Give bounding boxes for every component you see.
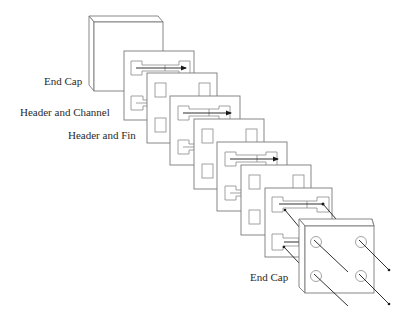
label-header-and-fin: Header and Fin	[68, 129, 136, 141]
exploded-stack-diagram	[0, 0, 405, 321]
label-end-cap-top: End Cap	[44, 75, 82, 87]
label-end-cap-bottom: End Cap	[250, 271, 288, 283]
label-header-and-channel: Header and Channel	[20, 106, 110, 118]
end-cap-bottom	[299, 219, 390, 306]
